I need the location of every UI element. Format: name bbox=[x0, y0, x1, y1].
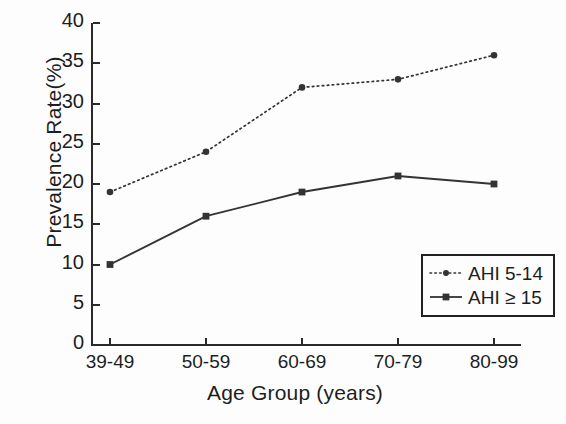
x-axis-title: Age Group (years) bbox=[75, 381, 515, 405]
y-axis-tick-label: 20 bbox=[62, 170, 84, 193]
x-axis-tick-label: 50-59 bbox=[151, 351, 261, 373]
x-axis-tick-label: 39-49 bbox=[55, 351, 165, 373]
x-axis-tick-label: 60-69 bbox=[247, 351, 357, 373]
y-axis-tick-label: 40 bbox=[62, 9, 84, 32]
y-axis-tick-label: 5 bbox=[73, 291, 84, 314]
legend-item-ahi-5-14: AHI 5-14 bbox=[429, 261, 547, 285]
data-point-marker bbox=[395, 76, 402, 83]
legend-marker-solid bbox=[429, 290, 463, 304]
data-point-marker bbox=[203, 213, 210, 220]
series-line bbox=[110, 55, 494, 192]
y-axis-tick-label: 35 bbox=[62, 49, 84, 72]
y-axis-tick-label: 15 bbox=[62, 210, 84, 233]
y-axis-tick-label: 30 bbox=[62, 90, 84, 113]
chart-legend: AHI 5-14 AHI ≥ 15 bbox=[421, 254, 555, 317]
legend-marker-dotted bbox=[429, 266, 463, 280]
data-point-marker bbox=[299, 189, 306, 196]
data-point-marker bbox=[395, 173, 402, 180]
data-point-marker bbox=[203, 149, 210, 156]
data-point-marker bbox=[299, 84, 306, 91]
data-point-marker bbox=[107, 261, 114, 268]
x-axis-tick-label: 70-79 bbox=[343, 351, 453, 373]
data-point-marker bbox=[491, 52, 498, 59]
legend-label: AHI 5-14 bbox=[468, 264, 543, 283]
x-axis-tick-label: 80-99 bbox=[439, 351, 549, 373]
data-point-marker bbox=[107, 189, 114, 196]
legend-item-ahi-ge-15: AHI ≥ 15 bbox=[429, 285, 547, 309]
y-axis-tick-label: 25 bbox=[62, 130, 84, 153]
legend-label: AHI ≥ 15 bbox=[468, 288, 542, 307]
y-axis-tick-label: 10 bbox=[62, 251, 84, 274]
data-point-marker bbox=[491, 181, 498, 188]
chart-figure: Prevalence Rate(%) Age Group (years) 051… bbox=[0, 0, 566, 424]
